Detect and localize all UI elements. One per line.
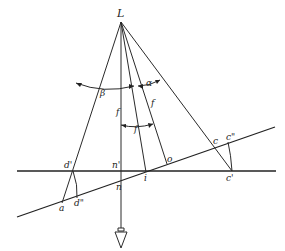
label-beta: β [99, 88, 105, 98]
d-arc [73, 171, 77, 198]
plumb-bob-icon [115, 232, 127, 248]
label-c-prime: c' [226, 173, 234, 183]
label-a: a [59, 203, 64, 213]
ray-to-i [121, 22, 146, 172]
arrowhead-icon [121, 124, 126, 128]
plumb-bob-cap-icon [118, 228, 124, 231]
arrowhead-icon [138, 84, 143, 89]
label-c: c [213, 136, 218, 146]
label-n-prime: n' [112, 160, 120, 170]
label-i: i [144, 173, 147, 183]
ray-to-c-prime [121, 22, 232, 171]
label-o: o [167, 154, 173, 164]
diagram-canvas: L β α f f f d' n' o c c" a d" n i c' [0, 0, 285, 251]
label-f-vertical: f [115, 107, 121, 117]
ray-to-o [121, 22, 167, 164]
label-d-prime: d' [64, 160, 72, 170]
label-alpha: α [146, 78, 152, 88]
label-f-axis: f [150, 98, 156, 108]
label-c-double-prime: c" [226, 132, 235, 142]
geometry-diagram: L β α f f f d' n' o c c" a d" n i c' [0, 0, 285, 251]
ray-to-a [62, 22, 121, 203]
label-d-double-prime: d" [74, 198, 84, 208]
label-L: L [116, 7, 124, 20]
label-n: n [116, 182, 122, 192]
